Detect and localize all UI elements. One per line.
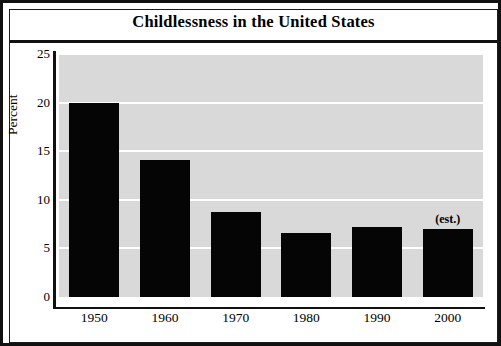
- gridline: [59, 102, 483, 104]
- plot-background: [59, 54, 483, 297]
- gridline: [59, 53, 483, 55]
- x-tick-label: 1960: [152, 310, 179, 326]
- chart-frame: Childlessness in the United States Perce…: [0, 0, 501, 346]
- bar: [69, 103, 119, 297]
- x-tick-label: 1950: [81, 310, 108, 326]
- bar: [281, 233, 331, 297]
- x-tick-label: 2000: [434, 310, 461, 326]
- y-tick-label: 25: [16, 46, 50, 62]
- x-axis-line: [53, 307, 485, 309]
- plot-area: (est.): [59, 54, 483, 297]
- gridline: [59, 247, 483, 249]
- x-tick-label: 1970: [222, 310, 249, 326]
- title-band: Childlessness in the United States: [10, 10, 497, 43]
- bar: [140, 160, 190, 297]
- y-axis-tick-labels: 0510152025: [10, 54, 50, 297]
- y-tick-label: 0: [16, 289, 50, 305]
- bar: [211, 212, 261, 297]
- x-tick-label: 1990: [364, 310, 391, 326]
- y-tick-label: 5: [16, 240, 50, 256]
- gridline: [59, 150, 483, 152]
- x-tick-label: 1980: [293, 310, 320, 326]
- title-rule-bottom: [10, 40, 497, 43]
- y-axis-line: [53, 51, 56, 309]
- gridline: [59, 199, 483, 201]
- y-tick-label: 15: [16, 143, 50, 159]
- chart-inner-frame: Childlessness in the United States Perce…: [9, 9, 498, 343]
- bar-annotation: (est.): [435, 212, 460, 227]
- chart-title: Childlessness in the United States: [10, 12, 497, 32]
- y-tick-label: 10: [16, 192, 50, 208]
- y-tick-label: 20: [16, 95, 50, 111]
- bar: [352, 227, 402, 297]
- bar: [423, 229, 473, 297]
